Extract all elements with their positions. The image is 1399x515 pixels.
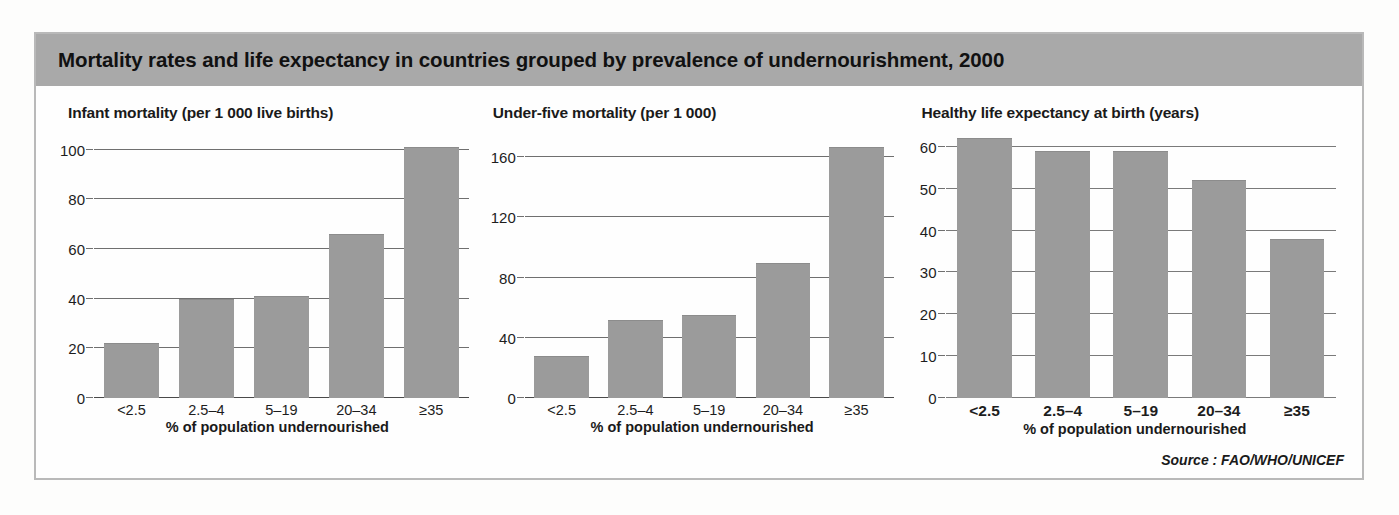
plot-area: 04080120160 — [525, 130, 894, 398]
bar — [104, 343, 159, 398]
x-tick-label: 5–19 — [1102, 402, 1180, 420]
y-tick-mark — [86, 298, 93, 299]
y-tick-mark — [938, 313, 945, 314]
figure-title: Mortality rates and life expectancy in c… — [36, 48, 1004, 72]
y-tick-mark — [86, 248, 93, 249]
x-tick-label: <2.5 — [946, 402, 1024, 420]
y-tick-label: 0 — [928, 390, 936, 407]
plot-area: 020406080100 — [94, 130, 469, 398]
y-tick-mark — [938, 271, 945, 272]
bar — [534, 356, 589, 398]
y-tick-mark — [517, 156, 524, 157]
x-tick-label: 5–19 — [672, 402, 746, 418]
bar — [608, 320, 663, 398]
chart-title: Infant mortality (per 1 000 live births) — [50, 100, 475, 130]
y-tick-label: 120 — [491, 209, 516, 226]
y-tick-label: 80 — [68, 191, 85, 208]
source-note: Source : FAO/WHO/UNICEF — [1161, 452, 1344, 468]
bar — [682, 315, 737, 398]
bar — [1035, 151, 1090, 398]
bar — [404, 147, 459, 398]
bar — [1192, 180, 1247, 398]
y-tick-mark — [86, 347, 93, 348]
y-tick-label: 30 — [920, 264, 937, 281]
chart-healthy-life-expectancy: Healthy life expectancy at birth (years)… — [900, 100, 1350, 478]
bar-slot — [820, 130, 894, 398]
y-tick-mark — [938, 355, 945, 356]
x-tick-label: 20–34 — [319, 402, 394, 418]
y-tick-mark — [517, 397, 524, 398]
y-tick-label: 0 — [77, 390, 85, 407]
y-tick-label: 160 — [491, 149, 516, 166]
y-tick-mark — [86, 397, 93, 398]
figure-root: Mortality rates and life expectancy in c… — [0, 0, 1399, 515]
x-axis-label: % of population undernourished — [475, 419, 900, 435]
x-tick-label: 5–19 — [244, 402, 319, 418]
y-tick-label: 50 — [920, 180, 937, 197]
y-tick-label: 40 — [499, 329, 516, 346]
bar-slot — [1180, 130, 1258, 398]
x-tick-label: 2.5–4 — [599, 402, 673, 418]
y-tick-label: 0 — [507, 390, 515, 407]
x-axis-label: % of population undernourished — [50, 419, 475, 435]
y-tick-mark — [938, 230, 945, 231]
bar-slot — [672, 130, 746, 398]
y-tick-mark — [938, 146, 945, 147]
y-tick-mark — [517, 337, 524, 338]
chart-infant-mortality: Infant mortality (per 1 000 live births)… — [50, 100, 475, 478]
bar — [254, 296, 309, 398]
bar — [329, 234, 384, 398]
bar-slot — [1024, 130, 1102, 398]
x-tick-label: <2.5 — [525, 402, 599, 418]
x-tick-label: 20–34 — [746, 402, 820, 418]
x-tick-label: 20–34 — [1180, 402, 1258, 420]
bar-slot — [746, 130, 820, 398]
y-tick-label: 60 — [68, 241, 85, 258]
x-tick-label: 2.5–4 — [169, 402, 244, 418]
bar-slot — [599, 130, 673, 398]
x-tick-label: ≥35 — [820, 402, 894, 418]
y-tick-mark — [938, 188, 945, 189]
x-tick-label: ≥35 — [1258, 402, 1336, 420]
x-tick-label: ≥35 — [394, 402, 469, 418]
figure-panel: Mortality rates and life expectancy in c… — [34, 32, 1364, 480]
y-tick-label: 40 — [920, 222, 937, 239]
bar — [756, 263, 811, 399]
chart-title: Under-five mortality (per 1 000) — [475, 100, 900, 130]
bar-slot — [94, 130, 169, 398]
bar-slot — [1102, 130, 1180, 398]
bar-series — [525, 130, 894, 398]
x-tick-label: 2.5–4 — [1024, 402, 1102, 420]
y-tick-label: 80 — [499, 269, 516, 286]
y-tick-label: 60 — [920, 138, 937, 155]
x-tick-labels: <2.52.5–45–1920–34≥35 — [946, 402, 1336, 420]
bar — [179, 299, 234, 398]
bar-slot — [946, 130, 1024, 398]
bar — [829, 147, 884, 398]
y-tick-mark — [517, 216, 524, 217]
bar-slot — [169, 130, 244, 398]
y-tick-mark — [86, 149, 93, 150]
bar-series — [94, 130, 469, 398]
chart-title: Healthy life expectancy at birth (years) — [900, 100, 1350, 130]
bar-slot — [1258, 130, 1336, 398]
x-tick-labels: <2.52.5–45–1920–34≥35 — [525, 402, 894, 418]
chart-under-five-mortality: Under-five mortality (per 1 000) 0408012… — [475, 100, 900, 478]
bar — [957, 138, 1012, 398]
plot-area: 0102030405060 — [946, 130, 1336, 398]
x-axis-label: % of population undernourished — [900, 421, 1350, 437]
x-tick-label: <2.5 — [94, 402, 169, 418]
bar — [1270, 239, 1325, 398]
bar-slot — [394, 130, 469, 398]
bar-slot — [525, 130, 599, 398]
y-tick-mark — [938, 397, 945, 398]
bar-slot — [244, 130, 319, 398]
y-tick-label: 20 — [68, 340, 85, 357]
y-tick-mark — [517, 277, 524, 278]
x-tick-labels: <2.52.5–45–1920–34≥35 — [94, 402, 469, 418]
figure-title-bar: Mortality rates and life expectancy in c… — [36, 34, 1362, 86]
charts-row: Infant mortality (per 1 000 live births)… — [36, 86, 1362, 478]
y-tick-label: 10 — [920, 348, 937, 365]
y-tick-label: 40 — [68, 290, 85, 307]
bar-slot — [319, 130, 394, 398]
